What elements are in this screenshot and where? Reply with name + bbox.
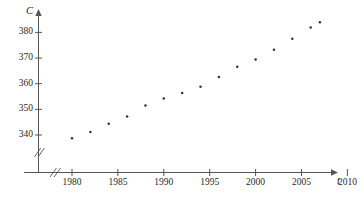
axes-group (24, 9, 338, 176)
x-tick-label: 1990 (147, 178, 181, 188)
x-tick-label: 2005 (285, 178, 319, 188)
data-point (126, 115, 129, 118)
x-tick-label: 1980 (55, 178, 89, 188)
x-tick-label: 1995 (193, 178, 227, 188)
data-points-group (71, 21, 321, 140)
y-tick-label: 360 (6, 79, 33, 89)
data-point (144, 104, 147, 107)
data-point (71, 137, 74, 140)
data-point (291, 38, 294, 41)
tick-marks-group (35, 32, 347, 176)
data-point (309, 26, 312, 29)
data-point (254, 58, 257, 61)
data-point (199, 86, 202, 89)
data-point (181, 92, 184, 95)
y-axis-label: C (26, 6, 33, 17)
data-point (163, 97, 166, 100)
x-tick-label: 1985 (101, 178, 135, 188)
data-point (107, 122, 110, 125)
y-tick-label: 340 (6, 130, 33, 140)
data-point (319, 21, 322, 24)
data-point (236, 66, 239, 69)
data-point (89, 131, 92, 134)
data-point (218, 76, 221, 79)
x-tick-label: 2000 (239, 178, 273, 188)
y-tick-label: 380 (6, 27, 33, 37)
y-tick-label: 350 (6, 104, 33, 114)
y-tick-label: 370 (6, 53, 33, 63)
data-point (273, 49, 276, 52)
x-tick-label: 2010 (330, 178, 362, 188)
